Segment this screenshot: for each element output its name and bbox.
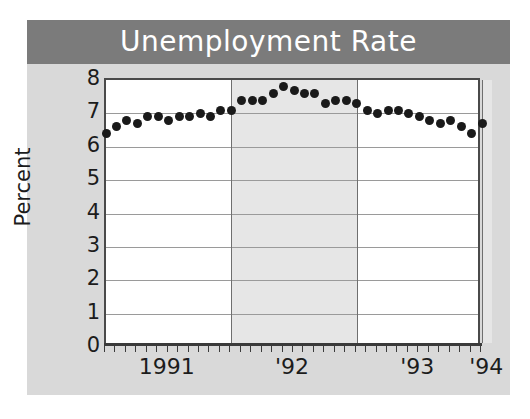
x-tick [135,345,136,352]
data-point [154,112,163,121]
y-axis-title: Percent [11,117,35,257]
x-tick [250,345,251,352]
data-point [300,89,309,98]
x-tick [386,345,387,352]
data-point [394,106,403,115]
x-tick-label: 1991 [139,356,195,378]
data-point [122,116,131,125]
data-point [258,96,267,105]
year-divider [357,80,358,343]
data-point [102,129,111,138]
y-axis: 012345678 [70,78,100,345]
data-point [467,129,476,138]
x-tick [271,345,272,352]
data-point [196,109,205,118]
x-tick [323,345,324,352]
x-tick [334,345,335,352]
x-tick-label: '92 [275,356,309,378]
x-tick [344,345,345,352]
x-tick [219,345,220,352]
y-tick-label: 2 [87,268,100,289]
data-point [237,96,246,105]
x-tick [261,345,262,352]
data-point [425,116,434,125]
x-tick [407,345,408,352]
year-divider [231,80,232,343]
y-tick-label: 8 [87,68,100,89]
data-point [436,119,445,128]
data-point [321,99,330,108]
y-tick-label: 1 [87,301,100,322]
y-tick-label: 6 [87,134,100,155]
x-tick [438,345,439,352]
data-point [290,86,299,95]
x-tick [449,345,450,352]
data-point [164,116,173,125]
data-point [363,106,372,115]
x-tick [208,345,209,352]
data-point [112,122,121,131]
x-axis-ticks [104,345,480,354]
x-tick [417,345,418,352]
x-tick [470,345,471,352]
chart-figure: Unemployment Rate 012345678 Percent 1991… [0,0,530,419]
x-tick-label: '94 [469,356,503,378]
data-point [227,106,236,115]
x-tick [365,345,366,352]
data-point [404,109,413,118]
data-point [352,99,361,108]
x-tick [459,345,460,352]
gridline-3 [106,247,478,248]
plot-area [104,78,480,345]
data-point [175,112,184,121]
x-tick [376,345,377,352]
x-tick [292,345,293,352]
chart-title-bar: Unemployment Rate [27,20,510,64]
x-tick [428,345,429,352]
data-point [143,112,152,121]
x-tick [396,345,397,352]
gridline-2 [106,280,478,281]
data-point [206,112,215,121]
data-point [342,96,351,105]
data-point [216,106,225,115]
y-tick-label: 7 [87,101,100,122]
data-point [373,109,382,118]
data-point [331,96,340,105]
x-axis-labels: 1991'92'93'94 [104,356,480,386]
x-tick [146,345,147,352]
x-tick [125,345,126,352]
gridline-1 [106,314,478,315]
y-tick-label: 3 [87,234,100,255]
x-tick [167,345,168,352]
gridline-5 [106,180,478,181]
x-tick [302,345,303,352]
data-point [185,112,194,121]
data-point [248,96,257,105]
x-tick [480,345,481,352]
y-tick-label: 4 [87,201,100,222]
x-tick [114,345,115,352]
gridline-6 [106,147,478,148]
data-point [457,122,466,131]
year-band-0 [231,80,356,343]
x-tick-label: '93 [400,356,434,378]
x-tick [240,345,241,352]
x-tick [156,345,157,352]
data-point [415,112,424,121]
x-tick [198,345,199,352]
x-tick [313,345,314,352]
data-point [384,106,393,115]
data-point [269,89,278,98]
x-tick [282,345,283,352]
data-point [446,116,455,125]
x-tick [177,345,178,352]
gridline-4 [106,214,478,215]
x-tick [188,345,189,352]
x-tick [104,345,105,352]
page-title: Unemployment Rate [120,28,417,56]
x-tick [355,345,356,352]
x-tick [229,345,230,352]
y-tick-label: 5 [87,168,100,189]
y-tick-label: 0 [87,335,100,356]
